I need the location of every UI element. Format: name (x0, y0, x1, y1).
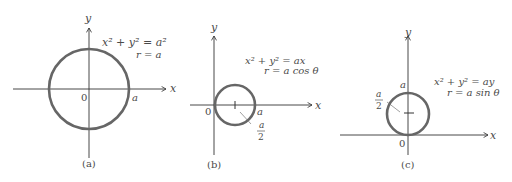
caption: (c) (401, 159, 415, 170)
origin-label: 0 (205, 106, 211, 117)
point-label-a: a (400, 79, 406, 90)
circle-figures: x y 0 a x² + y² = a² r = a (a) x y 0 a a… (0, 0, 512, 182)
point-label-a: a (132, 92, 138, 103)
caption: (b) (207, 159, 221, 170)
panel-b: x y 0 a a 2 x² + y² = ax r = a cos θ (b) (190, 21, 322, 170)
radius-label-numerator: a (259, 120, 264, 130)
equation-cartesian: x² + y² = a² (102, 36, 167, 49)
equation-cartesian: x² + y² = ay (434, 76, 495, 87)
panel-a: x y 0 a x² + y² = a² r = a (a) (13, 12, 177, 169)
panel-c: x y 0 a a 2 x² + y² = ay r = a sin θ (c) (340, 26, 500, 170)
y-axis-label: y (210, 21, 218, 34)
y-axis-label: y (404, 26, 412, 39)
radius-label-numerator: a (376, 89, 381, 99)
point-label-a: a (257, 106, 263, 117)
x-axis-label: x (170, 82, 177, 95)
radius-label-denominator: 2 (376, 101, 382, 111)
caption: (a) (82, 158, 96, 169)
equation-polar: r = a sin θ (447, 87, 500, 98)
x-axis-label: x (315, 99, 322, 112)
equation-polar: r = a (136, 49, 162, 60)
radius-label-denominator: 2 (258, 132, 264, 142)
origin-label: 0 (399, 138, 405, 149)
equation-polar: r = a cos θ (264, 65, 319, 76)
y-axis-label: y (84, 12, 92, 25)
x-axis-label: x (490, 129, 497, 142)
origin-label: 0 (81, 92, 87, 103)
